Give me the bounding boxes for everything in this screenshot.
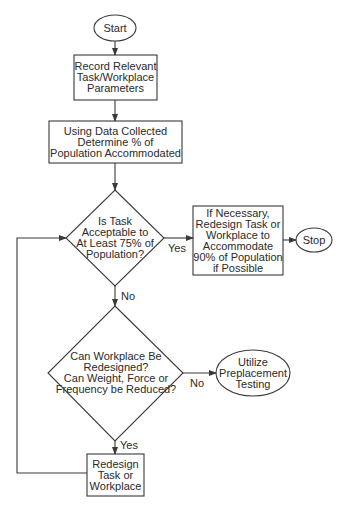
determine-population-label: Using Data Collected Determine % of Popu… xyxy=(49,121,182,163)
edge-label-decision1-no: No xyxy=(121,291,135,302)
redesign-task-label: Redesign Task or Workplace xyxy=(87,454,144,496)
decision-redesign-label: Can Workplace Be Redesigned? Can Weight,… xyxy=(50,350,182,396)
edge-label-decision2-no: No xyxy=(190,378,204,389)
redesign-90-percent-label: If Necessary, Redesign Task or Workplace… xyxy=(193,206,283,275)
stop-label: Stop xyxy=(296,228,332,252)
start-label: Start xyxy=(94,15,136,41)
preplacement-testing-label: Utilize Preplacement Testing xyxy=(216,350,290,396)
flowchart-canvas xyxy=(0,0,356,509)
edge-label-decision1-yes: Yes xyxy=(168,243,186,254)
record-parameters-label: Record Relevant Task/Workplace Parameter… xyxy=(74,55,157,100)
decision-acceptable-label: Is Task Acceptable to At Least 75% of Po… xyxy=(70,214,160,262)
edge-label-decision2-yes: Yes xyxy=(120,440,138,451)
